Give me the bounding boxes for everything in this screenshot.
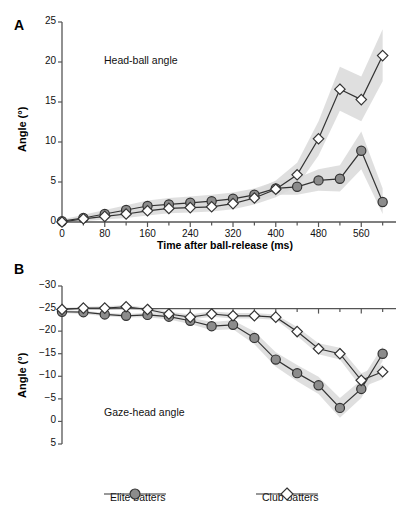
y-tick-label: −30 [20,280,56,290]
y-tick-label: −20 [20,325,56,335]
data-point-elite [314,381,323,390]
legend-marker-filled-circle [104,486,166,502]
legend: Elite batters Club batters [0,480,408,518]
x-tick-label: 400 [256,229,296,239]
panel-a: A Head-ball angle Angle (°) Time after b… [0,0,408,258]
legend-item-club: Club batters [256,486,319,508]
legend-marker-open-diamond [256,486,318,502]
y-tick-label: −10 [20,370,56,380]
x-tick-label: 320 [213,229,253,239]
x-tick-label: 80 [85,229,125,239]
data-point-club [228,311,238,321]
y-tick-label: 5 [20,438,56,448]
panel-b: B Gaze-head angle Angle (°) −30−25−20−15… [0,258,408,480]
data-point-club [121,302,131,312]
y-tick-label: 20 [20,56,56,66]
x-tick-label: 480 [299,229,339,239]
figure-container: A Head-ball angle Angle (°) Time after b… [0,0,408,518]
data-point-elite [378,197,387,206]
x-tick-label: 160 [128,229,168,239]
data-point-elite [293,182,302,191]
y-tick-label: 0 [20,415,56,425]
y-tick-label: 15 [20,96,56,106]
data-point-elite [314,176,323,185]
x-tick-label: 240 [170,229,210,239]
data-point-elite [378,349,387,358]
y-tick-label: 5 [20,176,56,186]
data-point-elite [357,146,366,155]
data-point-club [206,309,216,319]
panel-b-plot [0,258,408,480]
y-tick-label: 25 [20,16,56,26]
y-tick-label: −15 [20,348,56,358]
data-point-elite [335,403,344,412]
error-band-1 [62,305,383,388]
series-line-1 [62,307,383,381]
y-tick-label: 10 [20,136,56,146]
data-point-elite [207,322,216,331]
legend-item-elite: Elite batters [104,486,165,508]
data-point-club [249,311,259,321]
data-point-elite [335,174,344,183]
data-point-elite [271,355,280,364]
y-tick-label: 0 [20,216,56,226]
x-tick-label: 560 [341,229,381,239]
error-band-1 [62,29,383,222]
data-point-elite [293,369,302,378]
y-tick-label: −25 [20,303,56,313]
data-point-elite [250,333,259,342]
panel-a-plot [0,0,408,258]
y-tick-label: −5 [20,393,56,403]
x-tick-label: 0 [42,229,82,239]
